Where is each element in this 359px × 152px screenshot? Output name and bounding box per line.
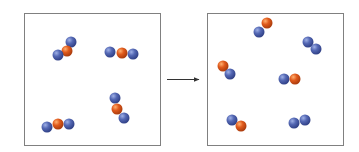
products-box [208,14,344,146]
orange-atom-icon [290,74,301,85]
blue-atom-icon [279,74,290,85]
blue-atom-icon [289,118,300,129]
blue-atom-icon [300,115,311,126]
blue-atom-icon [42,122,53,133]
blue-atom-icon [53,50,64,61]
blue-atom-icon [64,119,75,130]
blue-atom-icon [105,47,116,58]
blue-atom-icon [311,44,322,55]
reaction-diagram [0,0,359,152]
blue-atom-icon [254,27,265,38]
orange-atom-icon [236,121,247,132]
orange-atom-icon [117,48,128,59]
blue-atom-icon [227,115,238,126]
blue-atom-icon [225,69,236,80]
orange-atom-icon [262,18,273,29]
blue-atom-icon [119,113,130,124]
orange-atom-icon [53,119,64,130]
blue-atom-icon [110,93,121,104]
orange-atom-icon [112,104,123,115]
blue-atom-icon [128,49,139,60]
